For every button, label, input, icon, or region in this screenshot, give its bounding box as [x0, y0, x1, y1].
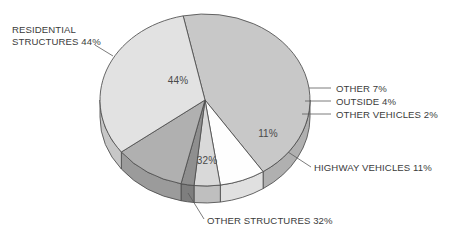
slice-value-other-structures: 32%: [197, 155, 217, 166]
callout-outside: OUTSIDE 4%: [336, 96, 397, 107]
callout-residential-structures-line2: STRUCTURES 44%: [12, 36, 101, 47]
pie-wall-outside: [194, 185, 220, 203]
callout-other: OTHER 7%: [336, 83, 387, 94]
pie-chart-svg: 44% 32% 11% RESIDENTIAL STRUCTURES 44% O…: [0, 0, 456, 250]
callout-other-structures: OTHER STRUCTURES 32%: [207, 215, 333, 226]
callout-residential-structures-line1: RESIDENTIAL: [12, 24, 77, 35]
pie-chart-figure: 44% 32% 11% RESIDENTIAL STRUCTURES 44% O…: [0, 0, 456, 250]
callout-other-vehicles: OTHER VEHICLES 2%: [336, 109, 438, 120]
slice-value-highway-vehicles: 11%: [258, 128, 278, 139]
callout-highway-vehicles: HIGHWAY VEHICLES 11%: [314, 162, 432, 173]
slice-value-residential-structures: 44%: [168, 75, 188, 86]
